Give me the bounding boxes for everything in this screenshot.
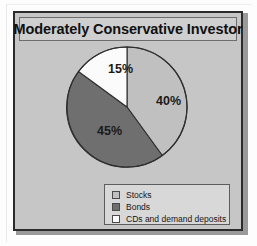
pie-label-stocks: 40% [156, 94, 181, 108]
legend-label-stocks: Stocks [126, 190, 152, 200]
pie-chart-figure: Moderately Conservative Investor 40% 45%… [13, 11, 243, 231]
chart-title: Moderately Conservative Investor [19, 17, 237, 41]
pie-label-cds: 15% [108, 62, 133, 76]
legend-swatch-cds-icon [112, 215, 120, 223]
page-edge-guide-vertical [6, 4, 7, 242]
legend-swatch-stocks-icon [112, 191, 120, 199]
legend-item-bonds: Bonds [112, 201, 229, 212]
legend-item-cds: CDs and demand deposits [112, 213, 229, 224]
screenshot-root: Moderately Conservative Investor 40% 45%… [0, 0, 257, 246]
legend-label-cds: CDs and demand deposits [126, 214, 226, 224]
legend-label-bonds: Bonds [126, 202, 150, 212]
pie-chart: 40% 45% 15% [66, 46, 188, 168]
page-edge-guide-horizontal [6, 4, 252, 5]
legend-item-stocks: Stocks [112, 189, 229, 200]
chart-plot-area: Moderately Conservative Investor 40% 45%… [15, 13, 241, 229]
chart-legend: Stocks Bonds CDs and demand deposits [104, 184, 230, 225]
pie-label-bonds: 45% [97, 124, 122, 138]
legend-swatch-bonds-icon [112, 203, 120, 211]
